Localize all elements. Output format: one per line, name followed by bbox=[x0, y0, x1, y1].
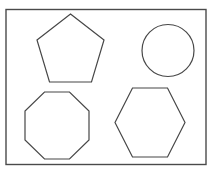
octagon-shape bbox=[25, 92, 89, 159]
circle-shape bbox=[142, 25, 194, 77]
shapes-svg bbox=[0, 0, 216, 173]
figure-canvas bbox=[0, 0, 216, 173]
